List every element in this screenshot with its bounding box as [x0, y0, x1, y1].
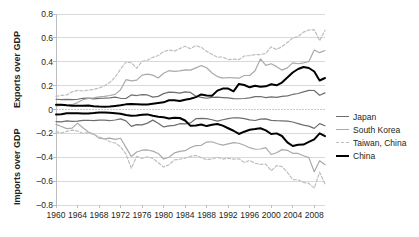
- legend-item-taiwan-china: Taiwan, China: [336, 136, 418, 149]
- legend-item-china: China: [336, 149, 418, 162]
- legend-label-japan: Japan: [353, 112, 376, 122]
- legend-item-japan: Japan: [336, 110, 418, 123]
- chart-legend: Japan South Korea Taiwan, China China: [336, 110, 418, 162]
- legend-label-taiwan-china: Taiwan, China: [353, 138, 406, 148]
- x-tick-label: 2008: [299, 211, 329, 220]
- legend-item-south-korea: South Korea: [336, 123, 418, 136]
- legend-label-china: China: [353, 151, 375, 161]
- legend-label-south-korea: South Korea: [353, 125, 400, 135]
- chart-figure: Exports over GDP Imports over GDP 0.80.6…: [0, 0, 419, 237]
